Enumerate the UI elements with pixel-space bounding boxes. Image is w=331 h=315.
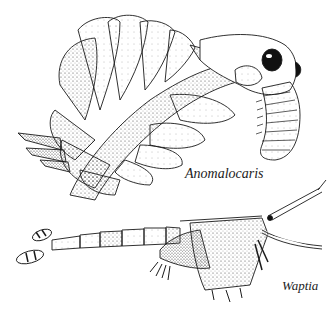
waptia-label: Waptia (282, 278, 318, 294)
illustration: Anomalocaris Waptia (0, 0, 331, 315)
waptia-drawing (15, 180, 326, 302)
fossil-drawing (0, 0, 331, 315)
anomalocaris-label: Anomalocaris (185, 166, 264, 182)
